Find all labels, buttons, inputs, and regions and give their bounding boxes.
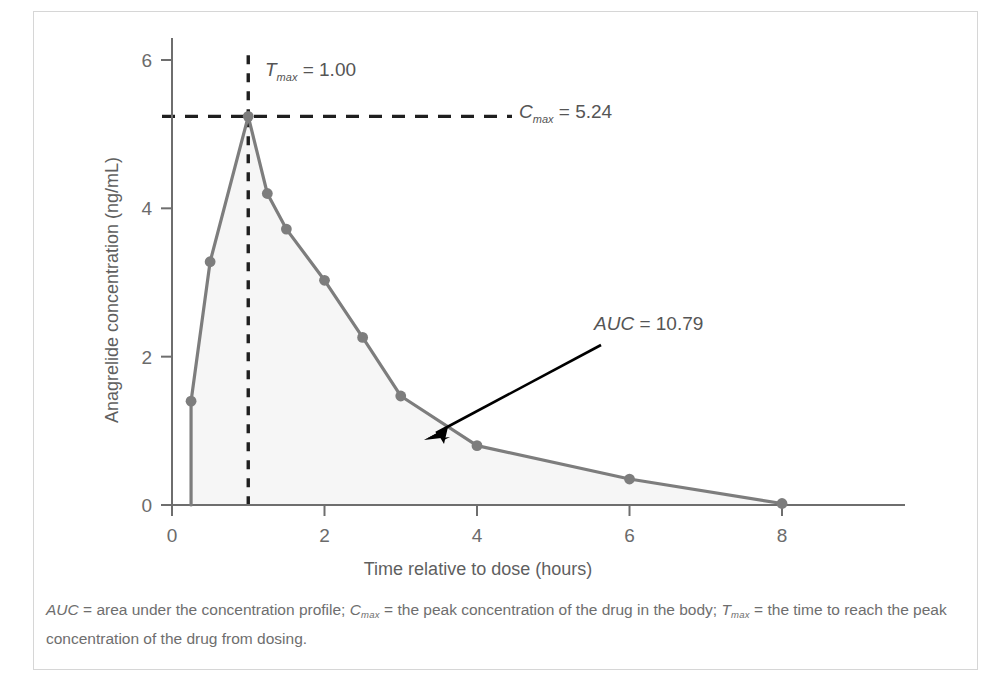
caption-seg1: = area under the concentration profile; bbox=[79, 601, 350, 618]
auc-value: = 10.79 bbox=[634, 313, 703, 334]
svg-text:Tmax = 1.00: Tmax = 1.00 bbox=[265, 59, 356, 83]
caption-tmax-sub: max bbox=[731, 609, 750, 620]
caption-tmax-abbr: T bbox=[721, 601, 730, 618]
x-axis-title: Time relative to dose (hours) bbox=[364, 559, 592, 579]
figure-root: 024602468 Anagrelide concentration (ng/m… bbox=[0, 0, 1000, 687]
auc-symbol: AUC bbox=[593, 313, 634, 334]
cmax-subscript: max bbox=[533, 113, 554, 125]
y-tick-label: 4 bbox=[141, 198, 152, 219]
figure-caption: AUC = area under the concentration profi… bbox=[46, 596, 951, 652]
x-tick-label: 8 bbox=[777, 525, 788, 546]
tmax-value: = 1.00 bbox=[297, 59, 356, 80]
y-axis-title: Anagrelide concentration (ng/mL) bbox=[102, 157, 122, 423]
caption-auc-abbr: AUC bbox=[46, 601, 79, 618]
tmax-subscript: max bbox=[277, 71, 298, 83]
cmax-value: = 5.24 bbox=[554, 101, 613, 122]
auc-annotation: AUC = 10.79 bbox=[424, 313, 703, 444]
y-tick-label: 6 bbox=[141, 50, 152, 71]
svg-text:AUC = 10.79: AUC = 10.79 bbox=[593, 313, 703, 334]
caption-cmax-abbr: C bbox=[350, 601, 361, 618]
svg-text:Cmax = 5.24: Cmax = 5.24 bbox=[519, 101, 613, 125]
cmax-symbol: C bbox=[519, 101, 533, 122]
x-tick-label: 2 bbox=[319, 525, 330, 546]
y-tick-label: 0 bbox=[141, 495, 152, 516]
pk-curve-chart: 024602468 Anagrelide concentration (ng/m… bbox=[0, 0, 1000, 687]
x-tick-label: 6 bbox=[624, 525, 635, 546]
tmax-annotation: Tmax = 1.00 bbox=[265, 59, 356, 83]
cmax-annotation: Cmax = 5.24 bbox=[519, 101, 613, 125]
x-tick-label: 4 bbox=[472, 525, 483, 546]
caption-cmax-sub: max bbox=[361, 609, 380, 620]
chart-area: 024602468 Anagrelide concentration (ng/m… bbox=[0, 0, 1000, 687]
x-tick-label: 0 bbox=[167, 525, 178, 546]
y-tick-label: 2 bbox=[141, 347, 152, 368]
caption-seg2: = the peak concentration of the drug in … bbox=[380, 601, 722, 618]
